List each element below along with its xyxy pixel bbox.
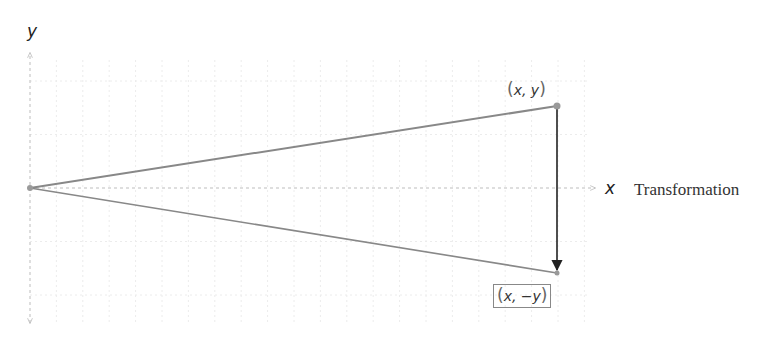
- reflection-diagram: [0, 0, 784, 345]
- original-point-label: (x, y): [507, 81, 546, 98]
- label-close-paren: ): [539, 79, 546, 99]
- label-body: x, y: [514, 82, 539, 98]
- label-open-paren: (: [497, 285, 504, 305]
- reflected-point: [555, 271, 560, 276]
- reflected-point-label: (x, −y): [493, 284, 551, 308]
- transformation-caption: Transformation: [634, 181, 739, 198]
- grid: [30, 60, 590, 322]
- x-axis-label: x: [605, 180, 615, 197]
- label-open-paren: (: [507, 79, 514, 99]
- label-close-paren: ): [541, 285, 548, 305]
- y-axis-label: y: [27, 23, 37, 40]
- origin-point: [27, 185, 33, 191]
- original-point: [554, 103, 561, 110]
- label-body: x, −y: [504, 288, 541, 304]
